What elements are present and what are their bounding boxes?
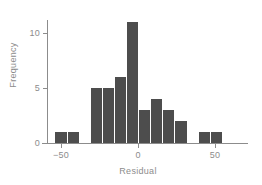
- x-axis-title: Residual: [0, 166, 262, 176]
- histogram-bar: [138, 110, 150, 143]
- histogram-bar: [174, 121, 186, 143]
- x-axis-tick-label: 0: [118, 150, 158, 160]
- histogram-bar: [126, 22, 138, 143]
- histogram-bar: [210, 132, 222, 143]
- plot-area: 0510 −50050 Frequency Residual: [0, 0, 262, 185]
- x-axis-tick-label: 50: [195, 150, 235, 160]
- y-axis-tick-label: 10: [22, 28, 40, 38]
- x-axis-tick: [61, 144, 62, 148]
- y-axis-tick-label-text: 0: [22, 138, 40, 148]
- histogram-bar: [150, 99, 162, 143]
- histogram-chart: 0510 −50050 Frequency Residual: [0, 0, 262, 185]
- y-axis-tick-label: 5: [22, 83, 40, 93]
- y-axis-tick-label-text: 5: [22, 83, 40, 93]
- histogram-bar: [90, 88, 102, 143]
- x-axis-tick: [215, 144, 216, 148]
- y-axis-tick-label: 0: [22, 138, 40, 148]
- x-axis-tick-label: −50: [41, 150, 81, 160]
- x-axis-line: [42, 143, 248, 144]
- histogram-bar: [102, 88, 114, 143]
- y-axis-tick: [43, 143, 47, 144]
- histogram-bar: [67, 132, 79, 143]
- x-axis-title-text: Residual: [119, 166, 156, 176]
- histogram-bar: [198, 132, 210, 143]
- x-axis-tick: [138, 144, 139, 148]
- histogram-bar: [55, 132, 67, 143]
- y-axis-tick-label-text: 10: [22, 28, 40, 38]
- y-axis-tick: [43, 33, 47, 34]
- histogram-bar: [162, 110, 174, 143]
- y-axis-line: [47, 20, 48, 144]
- y-axis-tick: [43, 88, 47, 89]
- histogram-bar: [114, 77, 126, 143]
- y-axis-title: Frequency: [8, 30, 18, 100]
